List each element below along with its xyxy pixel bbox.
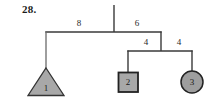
- branch-label-8: 8: [72, 19, 86, 28]
- branch-label-4-right: 4: [172, 38, 186, 47]
- branch-label-6: 6: [130, 19, 144, 28]
- taxon-label-3: 3: [186, 78, 198, 87]
- taxon-label-1: 1: [40, 84, 52, 93]
- taxon-label-2: 2: [122, 78, 134, 87]
- branch-label-4-left: 4: [139, 38, 153, 47]
- phylogenetic-tree-figure: 28. 8 6 4 4 1 2 3: [0, 0, 220, 99]
